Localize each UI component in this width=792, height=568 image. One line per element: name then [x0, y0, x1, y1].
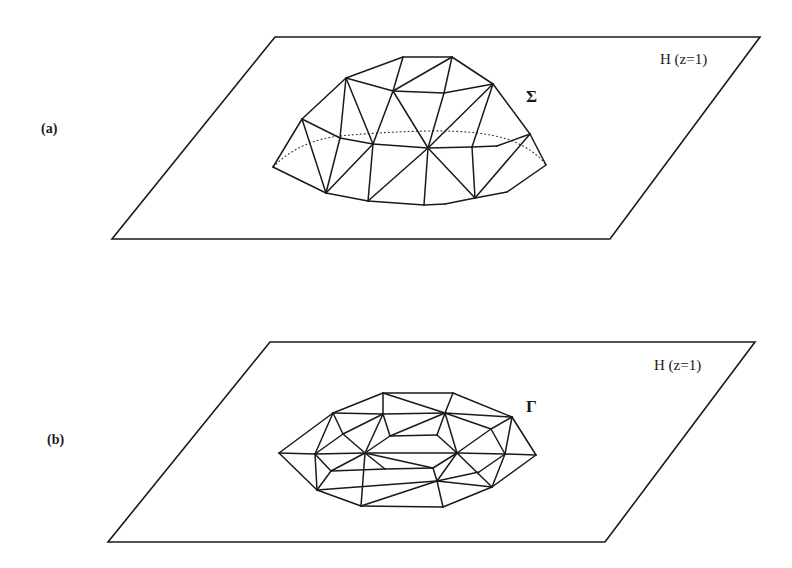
mesh-edge [317, 490, 361, 506]
mesh-edge [343, 414, 383, 434]
mesh-edge [472, 147, 475, 198]
gamma-label: Γ [526, 397, 537, 416]
mesh-edge [361, 506, 443, 507]
mesh-edge [512, 417, 536, 455]
panel-label-a: (a) [41, 121, 58, 137]
mesh-edge [317, 481, 437, 490]
sigma-label: Σ [526, 87, 537, 106]
flat-mesh-gamma [279, 393, 536, 507]
mesh-edge [393, 91, 444, 93]
mesh-edge [505, 454, 536, 455]
mesh-edge [505, 417, 512, 454]
mesh-edge [493, 84, 530, 134]
plane-label-a: H (z=1) [660, 51, 707, 68]
mesh-edge [445, 198, 475, 204]
mesh-edge [424, 148, 428, 205]
mesh-edge [437, 481, 492, 487]
mesh-edge [530, 134, 546, 165]
mesh-edge [437, 481, 443, 507]
mesh-edge [346, 78, 393, 91]
mesh-edge [472, 146, 497, 147]
mesh-edge [279, 453, 315, 454]
panel-a: (a) H (z=1) Σ [41, 37, 760, 239]
mesh-edge [331, 453, 365, 471]
panel-label-b: (b) [47, 432, 64, 448]
mesh-edge [340, 138, 373, 144]
mesh-edge [444, 57, 452, 93]
mesh-edge [433, 453, 457, 468]
mesh-edge [346, 57, 403, 78]
mesh-edge [373, 91, 393, 144]
mesh-edge [457, 453, 505, 454]
mesh-edge [507, 165, 546, 192]
mesh-edge [373, 144, 428, 148]
mesh-edge [457, 429, 491, 453]
mesh-edge [390, 413, 445, 436]
mesh-edge [333, 393, 383, 413]
mesh-edge [361, 453, 365, 506]
mesh-edge [433, 468, 437, 481]
mesh-edge [385, 468, 433, 469]
mesh-edge [326, 193, 368, 201]
mesh-edge [317, 471, 331, 490]
panel-b: (b) H (z=1) Γ [47, 342, 755, 542]
mesh-edge [390, 435, 437, 436]
mesh-edge [393, 91, 428, 148]
mesh-edge [383, 413, 445, 414]
mesh-edge [368, 148, 428, 201]
hidden-boundary-curve [273, 131, 546, 167]
mesh-edge [346, 78, 373, 144]
dome-mesh-sigma [273, 57, 546, 205]
mesh-edge [331, 469, 385, 471]
mesh-edge [343, 434, 365, 453]
mesh-edge [491, 417, 512, 429]
mesh-edge [273, 119, 302, 167]
mesh-edge [383, 393, 445, 413]
mesh-edge [383, 414, 390, 436]
mesh-edge [333, 413, 383, 414]
mesh-edge [443, 487, 492, 507]
mesh-edge [457, 453, 492, 487]
plane-label-b: H (z=1) [654, 357, 701, 374]
figure: (a) H (z=1) Σ (b) H (z=1) Γ [0, 0, 792, 568]
mesh-edge [302, 78, 346, 119]
mesh-edge [315, 453, 365, 454]
mesh-edge [315, 454, 331, 471]
mesh-edge [279, 453, 317, 490]
mesh-edge [368, 201, 424, 205]
mesh-edge [326, 144, 373, 193]
mesh-edge [452, 57, 493, 84]
mesh-edge [424, 204, 445, 205]
mesh-edge [302, 119, 326, 193]
mesh-edge [315, 454, 317, 490]
mesh-edge [333, 413, 343, 434]
mesh-edge [368, 144, 373, 201]
mesh-edge [445, 393, 453, 413]
mesh-edge [361, 481, 437, 506]
mesh-edge [340, 78, 346, 138]
mesh-edge [428, 147, 472, 148]
mesh-edge [491, 429, 505, 454]
plane-h-a [112, 37, 760, 239]
mesh-edge [428, 148, 475, 198]
